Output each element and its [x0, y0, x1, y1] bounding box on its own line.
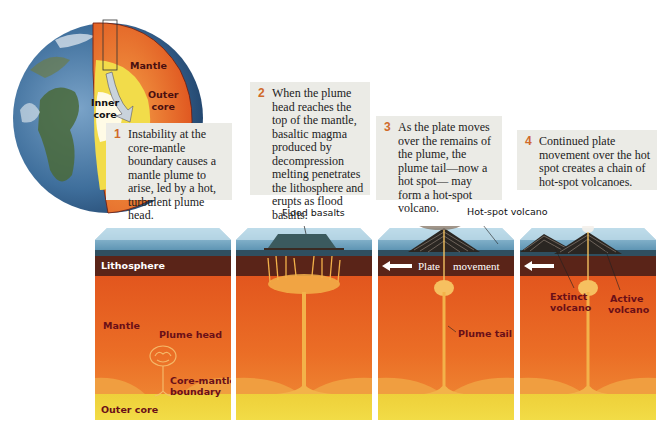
stage-4-block: Extinct volcano Active volcano: [520, 226, 656, 420]
active-volcano-label-1: Active: [610, 293, 643, 304]
core-mantle-boundary-label-1: Core-mantle: [170, 375, 231, 386]
step-4-number: 4: [525, 135, 532, 149]
step-2-text: When the plume head reaches the top of t…: [272, 86, 363, 222]
step-1-caption: 1 Instability at the core-mantle boundar…: [106, 123, 232, 200]
hot-spot-volcano-label: Hot-spot volcano: [467, 206, 548, 217]
step-3-caption: 3 As the plate moves over the remains of…: [376, 116, 502, 200]
extinct-volcano-label-2: volcano: [550, 302, 591, 313]
stage-3-block: Plate movement Plume tail: [378, 226, 514, 420]
step-3-text: As the plate moves over the remains of t…: [398, 120, 491, 215]
plate-label: Plate: [418, 261, 440, 272]
step-4-caption: 4 Continued plate movement over the hot …: [517, 130, 657, 190]
step-1-number: 1: [114, 128, 121, 142]
mantle-label: Mantle: [103, 320, 140, 331]
step-1-text: Instability at the core-mantle boundary …: [128, 127, 216, 222]
globe-label-outer-core: Outer core: [148, 89, 179, 113]
step-3-number: 3: [384, 121, 391, 135]
plume-head-label: Plume head: [159, 329, 222, 340]
stage-2-block: [236, 226, 372, 420]
lithosphere-label: Lithosphere: [101, 260, 165, 271]
plume-tail-label: Plume tail: [458, 328, 512, 339]
movement-label: movement: [453, 261, 499, 272]
step-2-number: 2: [258, 87, 265, 101]
outer-core-text: Outer core: [148, 89, 179, 112]
step-2-caption: 2 When the plume head reaches the top of…: [250, 82, 370, 195]
flood-basalts-label: Flood basalts: [282, 207, 345, 218]
active-volcano-label-2: volcano: [608, 304, 649, 315]
globe-label-mantle: Mantle: [130, 60, 167, 71]
globe-label-inner-core: Inner core: [91, 97, 119, 121]
stage-1-block: Lithosphere Mantle Plume head Core-mantl…: [95, 226, 231, 420]
step-4-text: Continued plate movement over the hot sp…: [539, 134, 650, 189]
inner-core-text: Inner core: [91, 97, 119, 120]
extinct-volcano-label-1: Extinct: [550, 291, 587, 302]
core-mantle-boundary-label-2: boundary: [170, 386, 221, 397]
outer-core-label: Outer core: [101, 404, 158, 415]
